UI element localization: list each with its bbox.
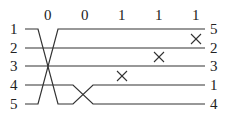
left-label-4: 4	[10, 77, 18, 93]
wire-4	[25, 85, 205, 104]
left-label-2: 2	[10, 40, 18, 56]
right-label-3: 3	[210, 58, 218, 74]
column-bit-3: 1	[118, 7, 126, 23]
right-label-4: 1	[210, 77, 218, 93]
right-label-1: 5	[210, 21, 218, 37]
column-bit-5: 1	[192, 7, 200, 23]
column-bit-4: 1	[155, 7, 163, 23]
right-label-2: 2	[210, 40, 218, 56]
x-mark-column-5	[191, 34, 201, 44]
x-mark-column-4	[154, 52, 164, 62]
left-label-5: 5	[10, 96, 18, 112]
wiring-diagram: 0 0 1 1 1 1 2 3 4 5 5 2 3 1 4	[0, 0, 227, 117]
column-bit-2: 0	[81, 7, 89, 23]
left-label-1: 1	[10, 21, 18, 37]
column-bit-1: 0	[44, 7, 52, 23]
right-label-5: 4	[210, 96, 218, 112]
x-mark-column-3	[117, 71, 127, 81]
left-label-3: 3	[10, 58, 18, 74]
